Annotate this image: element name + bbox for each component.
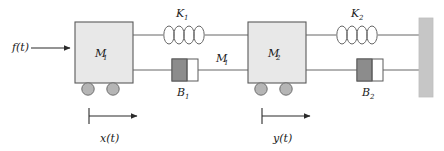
damper-b1-subscript: 1 xyxy=(185,93,189,101)
wheel-icon xyxy=(255,83,267,95)
mass2-wheels xyxy=(255,83,292,95)
displacement-y-label: y(t) xyxy=(272,132,292,145)
mass2-subscript: 2 xyxy=(275,54,281,62)
spring-k1 xyxy=(133,26,248,44)
displacement-y-arrow xyxy=(262,108,310,124)
wheel-icon xyxy=(107,83,119,95)
spring-k2 xyxy=(306,26,419,44)
mechanical-system-diagram: f(t) M 1 K 1 xyxy=(0,0,444,151)
wheel-icon xyxy=(82,83,94,95)
damper-b2-subscript: 2 xyxy=(369,93,375,101)
displacement-x-arrow xyxy=(89,108,137,124)
diagram-canvas: f(t) M 1 K 1 xyxy=(0,0,444,151)
damper-b2-label: B xyxy=(361,86,370,99)
damper-b1 xyxy=(133,59,248,81)
rod-label-subscript: 1 xyxy=(224,59,228,67)
displacement-x-label: x(t) xyxy=(100,132,119,145)
spring-k1-subscript: 1 xyxy=(184,14,188,22)
fixed-wall xyxy=(419,18,433,97)
spring-k2-subscript: 2 xyxy=(358,14,364,22)
force-label: f(t) xyxy=(11,41,29,54)
wheel-icon xyxy=(280,83,292,95)
damper-b2 xyxy=(306,59,419,81)
damper-b1-label: B xyxy=(176,86,185,99)
mass1-wheels xyxy=(82,83,119,95)
mass1-subscript: 1 xyxy=(103,54,107,62)
